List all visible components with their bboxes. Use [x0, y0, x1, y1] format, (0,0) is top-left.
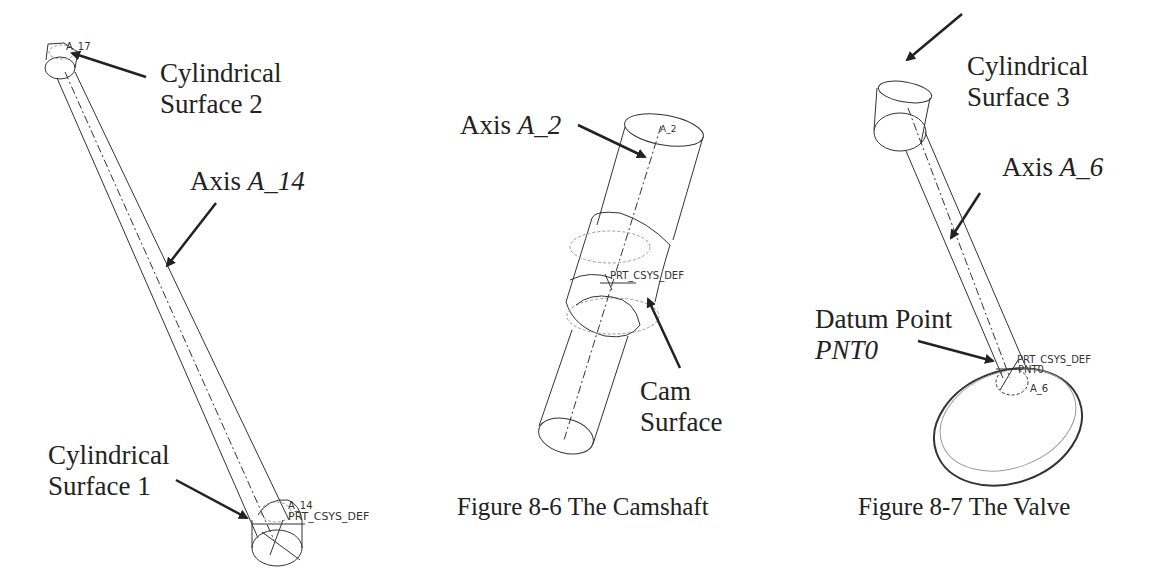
label-line: Surface 2 — [160, 89, 281, 120]
arrow-axis-a2 — [578, 125, 645, 157]
axis-name: A_6 — [1060, 152, 1104, 182]
arrow-cyl-surface-2 — [72, 53, 146, 77]
label-line: Cylindrical — [48, 440, 169, 471]
arrow-cam-surface — [648, 299, 680, 368]
cad-tag-csys: PRT_CSYS_DEF — [288, 510, 369, 523]
datum-point-name: PNT0 — [815, 335, 878, 365]
label-line: Cam — [640, 376, 722, 407]
label-prefix: Axis — [460, 110, 518, 140]
label-line: Surface 1 — [48, 471, 169, 502]
label-line: Cylindrical — [160, 58, 281, 89]
label-prefix: Axis — [1002, 152, 1060, 182]
figure-caption-8-7: Figure 8-7 The Valve — [858, 493, 1070, 521]
label-line: Surface 3 — [967, 82, 1088, 113]
arrow-axis-a14 — [167, 203, 216, 266]
label-cylindrical-surface-3: Cylindrical Surface 3 — [967, 51, 1088, 113]
arrow-cyl-surface-3 — [907, 14, 962, 60]
label-line: Surface — [640, 407, 722, 438]
label-axis-a2: Axis A_2 — [460, 110, 561, 141]
cad-tag-a17: A_17 — [66, 41, 91, 52]
label-axis-a6: Axis A_6 — [1002, 152, 1103, 183]
cad-tag-a2: A_2 — [660, 124, 676, 134]
axis-name: A_2 — [518, 110, 562, 140]
cad-tag-a6: A_6 — [1030, 383, 1048, 394]
figure-caption-8-6: Figure 8-6 The Camshaft — [457, 493, 709, 521]
label-line: Datum Point — [815, 304, 952, 335]
cad-tag-pnt0: PNT0 — [1018, 364, 1044, 375]
label-prefix: Axis — [190, 166, 248, 196]
arrow-cyl-surface-1 — [176, 480, 247, 518]
arrow-axis-a6 — [951, 193, 980, 238]
label-cam-surface: Cam Surface — [640, 376, 722, 438]
label-cylindrical-surface-2: Cylindrical Surface 2 — [160, 58, 281, 120]
axis-name: A_14 — [248, 166, 305, 196]
cad-tag-csys: PRT_CSYS_DEF — [610, 270, 684, 281]
label-axis-a14: Axis A_14 — [190, 166, 305, 197]
label-cylindrical-surface-1: Cylindrical Surface 1 — [48, 440, 169, 502]
label-line: Cylindrical — [967, 51, 1088, 82]
label-datum-point: Datum Point PNT0 — [815, 304, 952, 366]
valve-drawing — [874, 77, 1099, 505]
